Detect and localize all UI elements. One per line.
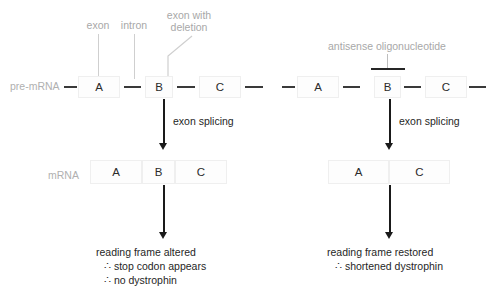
mrna-exon-box-a: A [90,160,142,184]
intron-segment [124,86,141,88]
intron-segment [404,86,421,88]
mrna-exon-box-c-right: C [389,160,450,184]
intron-segment [64,86,77,88]
mrna-exon-box-a-right: A [328,160,389,184]
splicing-arrow-shaft-right [389,99,391,144]
exon-letter: A [112,166,120,178]
outcome-arrow-head-left [159,232,167,239]
row-label-mrna: mRNA [48,169,79,181]
exon-letter: C [442,81,450,93]
callout-label-intron: intron [112,19,156,31]
splicing-arrow-head-right [385,143,393,150]
pre-mrna-exon-box-c-right: C [425,76,467,98]
exon-letter: B [155,166,163,178]
mrna-exon-box-c: C [175,160,227,184]
exon-letter: C [415,166,423,178]
callout-label-exon-with-deletion-line2: deletion [158,21,220,33]
pre-mrna-exon-box-b: B [145,76,173,98]
outcome-arrow-head-right [385,232,393,239]
callout-label-antisense-oligonucleotide: antisense oligonucleotide [313,40,461,52]
pre-mrna-exon-box-a-right: A [297,76,339,98]
exon-letter: A [355,166,363,178]
intron-segment [245,86,263,88]
leader-line-antisense [387,54,388,69]
outcome-line: ∴ shortened dystrophin [327,259,443,273]
leader-line-intron [134,34,135,79]
outcome-arrow-shaft-left [163,185,165,233]
outcome-text-right: reading frame restored ∴ shortened dystr… [327,245,443,273]
intron-segment [177,86,195,88]
exon-letter: A [314,81,322,93]
intron-segment [282,86,295,88]
outcome-line: reading frame altered [96,245,206,259]
exon-letter: C [197,166,205,178]
leader-line-exon [98,34,99,77]
pre-mrna-exon-box-b-right: B [374,76,401,98]
mrna-exon-box-b: B [142,160,175,184]
outcome-arrow-shaft-right [389,185,391,233]
outcome-line: reading frame restored [327,245,443,259]
outcome-text-left: reading frame altered ∴ stop codon appea… [96,245,206,287]
row-label-pre-mrna: pre-mRNA [10,80,60,92]
process-label-splicing-left: exon splicing [173,115,234,127]
splicing-arrow-head-left [159,143,167,150]
outcome-line: ∴ stop codon appears [96,259,206,273]
diagram-canvas: exon intron exon with deletion pre-mRNA … [0,0,491,298]
exon-letter: B [384,81,392,93]
outcome-line: ∴ no dystrophin [96,273,206,287]
antisense-oligonucleotide-bar [371,68,405,70]
exon-letter: C [216,81,224,93]
intron-segment [469,86,486,88]
leader-line-exon-with-deletion [150,34,195,80]
exon-letter: A [95,81,103,93]
intron-segment [343,86,360,88]
pre-mrna-exon-box-a: A [78,76,120,98]
exon-letter: B [155,81,163,93]
splicing-arrow-shaft-left [163,99,165,144]
callout-label-exon-with-deletion-line1: exon with [158,9,220,21]
pre-mrna-exon-box-c: C [199,76,241,98]
process-label-splicing-right: exon splicing [399,115,460,127]
